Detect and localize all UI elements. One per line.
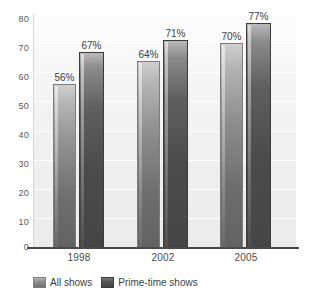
y-tick-label-0: 0	[7, 243, 29, 252]
y-tick-label-80: 80	[7, 15, 29, 24]
legend: All shows Prime-time shows	[33, 277, 198, 288]
bar-1998-prime-time-shows: 67%	[79, 52, 104, 248]
y-tick-label-70: 70	[7, 44, 29, 53]
bar-value-label: 67%	[81, 41, 101, 51]
bar-value-label: 70%	[221, 32, 241, 42]
plot-area: 56% 67% 64% 71% 70% 77%	[33, 14, 296, 248]
bar-highlight	[165, 42, 168, 248]
bar-highlight	[139, 63, 142, 248]
legend-swatch-icon	[101, 277, 114, 288]
legend-item-all-shows: All shows	[33, 277, 92, 288]
bar-2005-prime-time-shows: 77%	[246, 23, 271, 248]
bar-2005-all-shows: 70%	[220, 43, 243, 248]
bar-highlight	[55, 86, 58, 248]
legend-item-label: Prime-time shows	[118, 277, 197, 288]
bar-1998-all-shows: 56%	[53, 84, 76, 248]
y-tick-label-60: 60	[7, 73, 29, 82]
legend-item-label: All shows	[50, 277, 92, 288]
y-axis-line	[33, 14, 34, 248]
x-axis-line	[27, 247, 299, 249]
y-tick-label-40: 40	[7, 131, 29, 140]
x-tick-label-2002: 2002	[133, 252, 193, 263]
x-tick-label-2005: 2005	[216, 252, 276, 263]
bar-highlight	[81, 54, 84, 248]
y-axis-ticks: 80 70 60 50 40 30 20 10 0	[0, 0, 29, 303]
legend-swatch-icon	[33, 277, 46, 288]
bar-highlight	[222, 45, 225, 248]
y-tick-label-30: 30	[7, 160, 29, 169]
y-tick-label-10: 10	[7, 218, 29, 227]
bar-2002-all-shows: 64%	[137, 61, 160, 248]
bar-value-label: 56%	[54, 73, 74, 83]
y-tick-label-20: 20	[7, 189, 29, 198]
bar-chart: 56% 67% 64% 71% 70% 77% 80 70 60 50	[0, 0, 313, 303]
legend-item-prime-time-shows: Prime-time shows	[101, 277, 197, 288]
bar-value-label: 77%	[248, 12, 268, 22]
bar-highlight	[248, 25, 251, 248]
bar-value-label: 64%	[138, 50, 158, 60]
x-tick-label-1998: 1998	[49, 252, 109, 263]
y-tick-label-50: 50	[7, 102, 29, 111]
bar-2002-prime-time-shows: 71%	[163, 40, 188, 248]
bar-value-label: 71%	[165, 29, 185, 39]
